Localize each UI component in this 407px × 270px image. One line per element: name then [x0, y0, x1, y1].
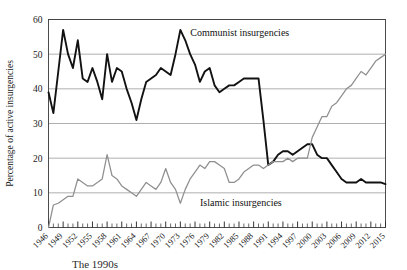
series-annotation: Communist insurgencies — [190, 27, 289, 38]
figure-container: 0102030405060 19461949195219551958196119… — [0, 0, 407, 270]
series-annotation: Islamic insurgencies — [200, 197, 282, 208]
y-tick-label: 50 — [33, 50, 43, 60]
figure-caption: The 1990s — [72, 258, 118, 270]
y-axis-title: Percentage of active insurgencies — [5, 60, 15, 187]
y-tick-label: 40 — [33, 84, 43, 94]
y-tick-label: 20 — [33, 154, 43, 164]
insurgency-line-chart: 0102030405060 19461949195219551958196119… — [0, 0, 407, 270]
y-tick-label: 10 — [33, 188, 43, 198]
y-tick-label: 30 — [33, 119, 43, 129]
y-tick-label: 60 — [33, 15, 43, 25]
caption-fragment: The 1990s — [72, 258, 118, 270]
y-axis-label: Percentage of active insurgencies — [5, 60, 15, 187]
